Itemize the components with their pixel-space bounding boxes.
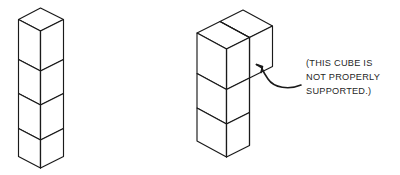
annotation-text-block: (THIS CUBE IS NOT PROPERLY SUPPORTED.) <box>306 56 398 98</box>
left-cube-stack <box>19 8 64 168</box>
right-cube-structure <box>197 10 273 157</box>
figure-root: (THIS CUBE IS NOT PROPERLY SUPPORTED.) <box>0 0 400 175</box>
annotation-line-1: (THIS CUBE IS <box>306 56 398 70</box>
annotation-line-3: SUPPORTED.) <box>306 84 398 98</box>
annotation-arrow-curve <box>262 68 302 88</box>
annotation-line-2: NOT PROPERLY <box>306 70 398 84</box>
